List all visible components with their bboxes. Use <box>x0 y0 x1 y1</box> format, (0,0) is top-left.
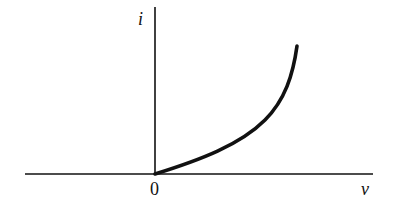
iv-characteristic-diagram: i 0 v <box>0 0 396 201</box>
y-axis-label: i <box>138 9 143 29</box>
iv-curve <box>155 46 297 174</box>
origin-label: 0 <box>150 179 159 199</box>
x-axis-label: v <box>361 179 369 199</box>
